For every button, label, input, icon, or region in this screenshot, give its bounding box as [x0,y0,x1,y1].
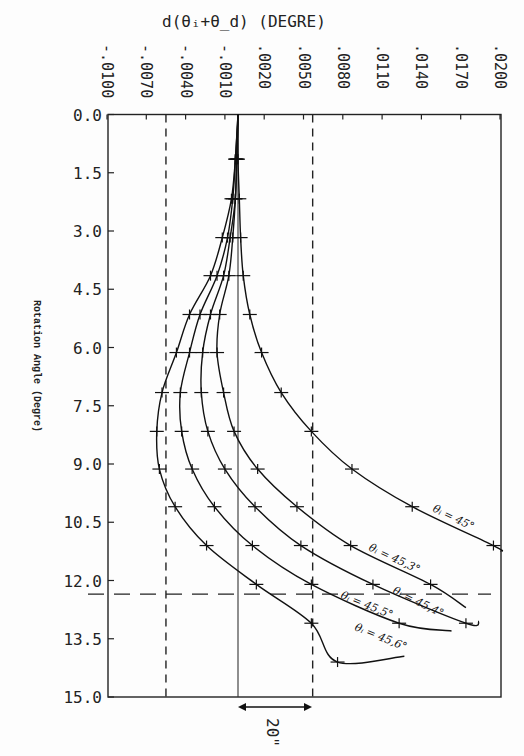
x-tick-label: -.0100 [98,44,116,98]
y-tick-label: 13.5 [63,630,102,649]
y-axis-title: Rotation Angle (Degre) [31,300,42,432]
x-tick-label: .0080 [334,44,352,89]
y-axis-ticks: 0.01.53.04.56.07.59.010.512.013.515.0 [63,106,114,708]
curve-label: θᵢ = 45,4° [391,584,446,620]
x-tick-label: .0110 [373,44,391,89]
y-tick-label: 6.0 [73,339,102,358]
arrow-left-icon [238,703,246,711]
x-axis-ticks: -.0100-.0070-.0040-.0010.0020.0050.0080.… [98,44,509,120]
y-tick-label: 7.5 [73,397,102,416]
curves [150,115,503,668]
x-tick-label: .0050 [295,44,313,89]
curve-line [201,115,479,626]
y-tick-label: 4.5 [73,280,102,299]
x-tick-label: .0200 [491,44,509,89]
chart-svg: -.0100-.0070-.0040-.0010.0020.0050.0080.… [0,0,524,756]
y-tick-label: 0.0 [73,106,102,125]
y-tick-label: 1.5 [73,164,102,183]
curve-line [238,115,503,552]
chart-root: -.0100-.0070-.0040-.0010.0020.0050.0080.… [0,0,524,756]
y-tick-label: 9.0 [73,455,102,474]
x-tick-label: .0170 [452,44,470,89]
curve-label: θᵢ = 45° [431,502,477,533]
span-label: 20" [263,718,282,747]
x-tick-label: -.0070 [137,44,155,98]
curve-label: θᵢ = 45,6° [353,621,409,654]
x-tick-label: .0020 [255,44,273,89]
curve-line [217,115,466,608]
y-tick-label: 12.0 [63,572,102,591]
y-tick-label: 3.0 [73,222,102,241]
span-annotation: 20" [238,703,312,747]
y-tick-label: 15.0 [63,688,102,707]
arrow-right-icon [304,703,312,711]
y-tick-label: 10.5 [63,513,102,532]
x-tick-label: -.0040 [177,44,195,98]
x-tick-label: .0140 [412,44,430,89]
curve-line [180,115,452,631]
x-axis-title: d(θᵢ+θ_d) (DEGRE) [162,12,326,31]
x-tick-label: -.0010 [216,44,234,98]
